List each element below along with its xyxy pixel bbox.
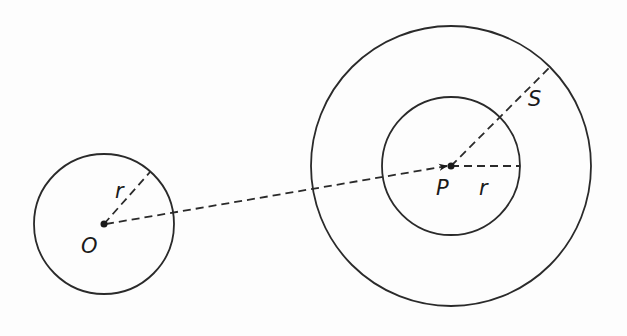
- label-O: O: [81, 234, 98, 258]
- diagram-svg: O r P r S: [0, 0, 627, 336]
- point-O: [101, 221, 108, 228]
- label-r-inner: r: [479, 176, 489, 200]
- point-P: [448, 163, 455, 170]
- label-S: S: [528, 87, 541, 111]
- radius-line-O: [104, 172, 150, 224]
- label-P: P: [436, 176, 449, 200]
- radius-line-P-outer: [451, 67, 550, 166]
- vector-O-to-P: [106, 166, 447, 224]
- diagram-canvas: O r P r S: [0, 0, 627, 336]
- label-r-small: r: [115, 179, 125, 203]
